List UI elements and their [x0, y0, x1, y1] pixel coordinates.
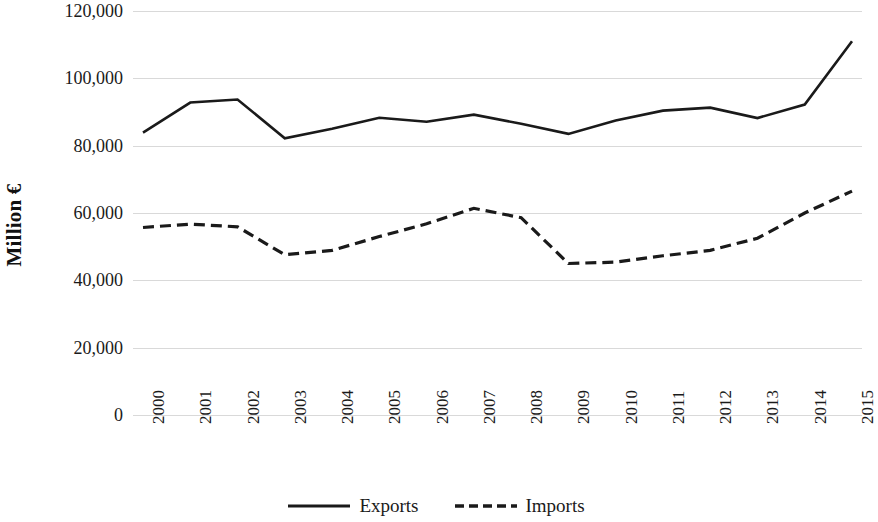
y-axis-tick-label: 120,000: [0, 1, 133, 22]
x-axis-tick-label: 2000: [149, 390, 169, 424]
x-axis-tick-label: 2015: [858, 390, 878, 424]
y-axis-tick-label: 100,000: [0, 68, 133, 89]
y-axis-tick-label: 80,000: [0, 135, 133, 156]
x-axis-tick-label: 2005: [385, 390, 405, 424]
legend-entry-imports: Imports: [455, 495, 585, 517]
x-axis-tick-label: 2013: [763, 390, 783, 424]
legend-entry-exports: Exports: [288, 495, 418, 517]
x-axis-tick-label: 2001: [196, 390, 216, 424]
x-axis-tick-label: 2002: [244, 390, 264, 424]
series-line-imports: [143, 191, 852, 263]
series-line-exports: [143, 41, 852, 138]
x-axis-tick-label: 2009: [574, 390, 594, 424]
y-axis-tick-label: 20,000: [0, 337, 133, 358]
x-axis-tick-label: 2003: [291, 390, 311, 424]
series-layer: [133, 0, 862, 430]
legend-label-exports: Exports: [359, 495, 418, 517]
y-axis-tick-label: 40,000: [0, 270, 133, 291]
x-axis-tick-label: 2011: [669, 391, 689, 424]
x-axis-tick-label: 2010: [622, 390, 642, 424]
x-axis-tick-labels: 2000200120022003200420052006200720082009…: [133, 418, 862, 490]
plot-area: [133, 0, 862, 430]
x-axis-tick-label: 2008: [527, 390, 547, 424]
x-axis-tick-label: 2007: [480, 390, 500, 424]
x-axis-tick-label: 2012: [716, 390, 736, 424]
x-axis-tick-label: 2014: [811, 390, 831, 424]
legend-swatch-dashed-line-icon: [455, 500, 517, 512]
legend-swatch-solid-line-icon: [288, 500, 350, 512]
y-axis-tick-label: 60,000: [0, 203, 133, 224]
y-axis-tick-label: 0: [0, 405, 133, 426]
x-axis-tick-label: 2006: [433, 390, 453, 424]
y-axis-tick-labels: 020,00040,00060,00080,000100,000120,000: [0, 0, 133, 430]
x-axis-tick-label: 2004: [338, 390, 358, 424]
chart-legend: Exports Imports: [0, 489, 873, 522]
legend-label-imports: Imports: [526, 495, 585, 517]
